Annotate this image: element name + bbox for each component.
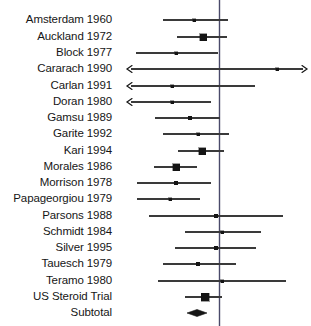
- summary-diamond-marker: [187, 310, 207, 317]
- point-estimate-marker: [174, 181, 178, 185]
- study-label: Garite 1992: [0, 127, 112, 139]
- forest-plot: Amsterdam 1960Auckland 1972Block 1977Car…: [0, 0, 311, 326]
- forest-row: [178, 148, 224, 155]
- point-estimate-marker: [171, 85, 174, 88]
- study-label: Parsons 1988: [0, 209, 112, 221]
- forest-row: [137, 198, 200, 201]
- forest-row: [163, 262, 236, 266]
- point-estimate-marker: [221, 280, 224, 283]
- point-estimate-marker: [193, 19, 196, 22]
- point-estimate-marker: [175, 52, 178, 55]
- point-estimate-marker: [200, 34, 207, 41]
- study-label: Block 1977: [0, 46, 112, 58]
- study-label: Kari 1994: [0, 144, 112, 156]
- study-label: Silver 1995: [0, 241, 112, 253]
- study-label: Amsterdam 1960: [0, 13, 112, 25]
- study-label: Papageorgiou 1979: [0, 192, 112, 204]
- point-estimate-marker: [214, 214, 218, 218]
- forest-row: [185, 231, 261, 234]
- forest-row: [149, 214, 283, 218]
- summary-label: Subtotal: [0, 306, 112, 318]
- study-label: Morrison 1978: [0, 176, 112, 188]
- point-estimate-marker: [196, 262, 200, 266]
- point-estimate-marker: [169, 198, 172, 201]
- point-estimate-marker: [221, 231, 224, 234]
- study-label: Gamsu 1989: [0, 111, 112, 123]
- point-estimate-marker: [188, 116, 192, 120]
- study-label: Doran 1980: [0, 95, 112, 107]
- study-label: Schmidt 1984: [0, 225, 112, 237]
- forest-row: [158, 280, 286, 283]
- forest-row: [136, 52, 218, 55]
- point-estimate-marker: [276, 68, 279, 71]
- point-estimate-marker: [173, 164, 180, 171]
- point-estimate-marker: [197, 133, 200, 136]
- study-label: Auckland 1972: [0, 30, 112, 42]
- study-labels-column: Amsterdam 1960Auckland 1972Block 1977Car…: [0, 0, 112, 326]
- forest-row: [127, 99, 211, 106]
- forest-row: [185, 293, 222, 301]
- study-label: US Steroid Trial: [0, 290, 112, 302]
- forest-row: [127, 83, 255, 90]
- study-label: Cararach 1990: [0, 62, 112, 74]
- forest-row: [154, 164, 197, 171]
- forest-row: [155, 116, 220, 120]
- study-label: Teramo 1980: [0, 274, 112, 286]
- point-estimate-marker: [214, 246, 218, 250]
- study-label: Carlan 1991: [0, 79, 112, 91]
- point-estimate-marker: [171, 101, 174, 104]
- forest-row: [127, 66, 307, 73]
- study-label: Tauesch 1979: [0, 257, 112, 269]
- forest-row: [137, 181, 211, 185]
- forest-row: [175, 246, 256, 250]
- forest-row: [163, 19, 228, 22]
- point-estimate-marker: [201, 293, 209, 301]
- point-estimate-marker: [199, 148, 206, 155]
- study-label: Morales 1986: [0, 160, 112, 172]
